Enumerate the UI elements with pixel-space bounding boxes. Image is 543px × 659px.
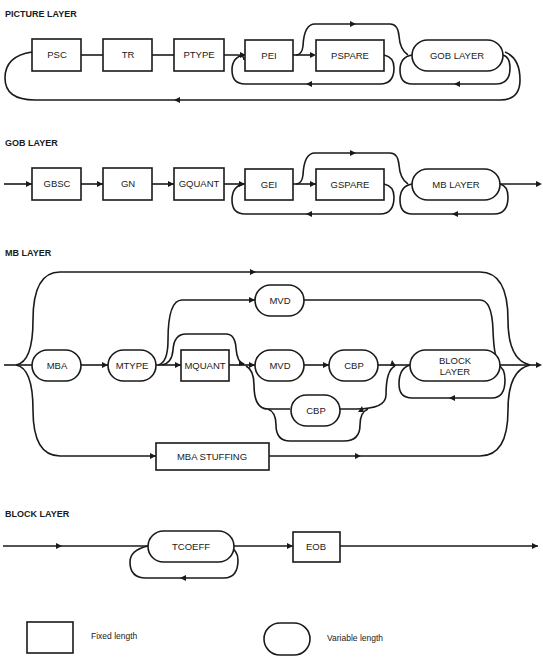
- block-layer-section: BLOCK LAYER TCOEFF EOB: [3, 509, 538, 581]
- svg-text:GBSC: GBSC: [44, 178, 71, 189]
- svg-text:MTYPE: MTYPE: [116, 360, 149, 371]
- legend-fixed-label: Fixed length: [91, 631, 138, 641]
- svg-text:MBA STUFFING: MBA STUFFING: [177, 451, 247, 462]
- svg-text:CBP: CBP: [344, 360, 364, 371]
- gob-layer-section: GOB LAYER GBSC GN GQUANT GEI GSPARE: [4, 138, 542, 217]
- svg-text:EOB: EOB: [306, 541, 326, 552]
- picture-layer-section: PICTURE LAYER PSC TR PTYPE PEI PSPARE: [5, 9, 520, 103]
- svg-text:CBP: CBP: [306, 405, 326, 416]
- svg-text:PEI: PEI: [261, 50, 276, 61]
- legend-variable-label: Variable length: [327, 633, 383, 643]
- legend-fixed-shape: [27, 622, 73, 653]
- svg-text:TCOEFF: TCOEFF: [172, 541, 210, 552]
- svg-text:MB LAYER: MB LAYER: [432, 179, 479, 190]
- svg-text:TR: TR: [122, 49, 135, 60]
- svg-text:MQUANT: MQUANT: [184, 360, 225, 371]
- svg-text:BLOCK: BLOCK: [439, 355, 472, 366]
- svg-text:GSPARE: GSPARE: [331, 179, 370, 190]
- syntax-diagram: PICTURE LAYER PSC TR PTYPE PEI PSPARE: [0, 0, 543, 659]
- svg-text:MBA: MBA: [47, 360, 68, 371]
- svg-text:GN: GN: [121, 178, 135, 189]
- svg-text:PSC: PSC: [47, 49, 67, 60]
- legend-variable-shape: [264, 623, 310, 655]
- section-title-mb: MB LAYER: [5, 248, 52, 258]
- svg-text:PTYPE: PTYPE: [183, 49, 214, 60]
- svg-text:MVD: MVD: [269, 360, 290, 371]
- mb-layer-section: MB LAYER: [4, 248, 542, 470]
- section-title-gob: GOB LAYER: [5, 138, 58, 148]
- svg-text:MVD: MVD: [269, 295, 290, 306]
- legend: Fixed length Variable length: [27, 622, 383, 655]
- svg-text:GQUANT: GQUANT: [179, 178, 220, 189]
- svg-text:PSPARE: PSPARE: [331, 50, 369, 61]
- section-title-block: BLOCK LAYER: [5, 509, 70, 519]
- svg-text:GEI: GEI: [261, 179, 277, 190]
- svg-text:LAYER: LAYER: [440, 366, 471, 377]
- section-title-picture: PICTURE LAYER: [5, 9, 77, 19]
- svg-text:GOB LAYER: GOB LAYER: [430, 50, 484, 61]
